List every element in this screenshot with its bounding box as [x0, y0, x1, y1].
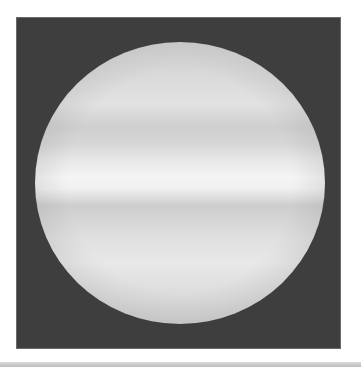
planet-disk: [35, 42, 325, 324]
image-frame: [16, 17, 341, 349]
bottom-bar: [0, 362, 361, 367]
margin: [0, 349, 361, 361]
